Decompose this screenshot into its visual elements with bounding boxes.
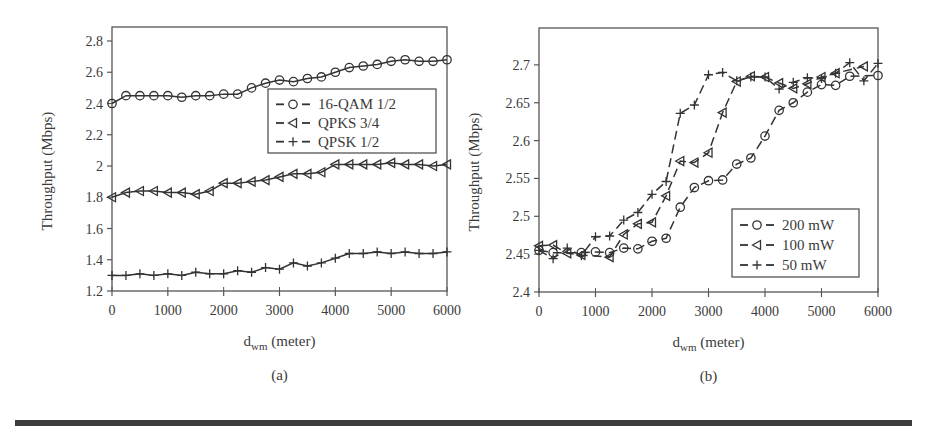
plus-marker bbox=[219, 269, 228, 278]
plus-marker bbox=[387, 249, 396, 258]
x-tick-label: 2000 bbox=[638, 304, 666, 319]
x-tick-label: 6000 bbox=[864, 304, 892, 319]
plus-marker bbox=[443, 247, 452, 256]
y-tick-label: 2 bbox=[96, 159, 103, 174]
y-tick-label: 1.2 bbox=[86, 284, 104, 299]
y-tick-label: 2.4 bbox=[513, 285, 531, 300]
legend-label: 100 mW bbox=[782, 237, 835, 253]
plus-marker bbox=[690, 101, 699, 110]
plus-marker bbox=[359, 249, 368, 258]
y-tick-label: 2.2 bbox=[86, 128, 104, 143]
x-tick-label: 3000 bbox=[695, 304, 723, 319]
chart-panel-a: 1.21.41.61.822.22.42.62.8010002000300040… bbox=[39, 27, 461, 384]
x-tick-label: 5000 bbox=[377, 303, 405, 318]
y-tick-label: 1.4 bbox=[86, 253, 104, 268]
plus-marker bbox=[429, 249, 438, 258]
y-tick-label: 2.4 bbox=[86, 97, 104, 112]
plus-marker bbox=[205, 269, 214, 278]
series-qpsk-1-2 bbox=[108, 247, 452, 279]
x-tick-label: 0 bbox=[536, 304, 543, 319]
y-tick-label: 2.65 bbox=[506, 96, 531, 111]
y-tick-label: 2.5 bbox=[513, 209, 531, 224]
plus-marker bbox=[191, 268, 200, 277]
x-tick-label: 1000 bbox=[154, 303, 182, 318]
y-tick-label: 2.6 bbox=[86, 65, 104, 80]
y-tick-label: 2.8 bbox=[86, 34, 104, 49]
plus-marker bbox=[331, 254, 340, 263]
legend-label: 16-QAM 1/2 bbox=[318, 96, 396, 112]
y-tick-label: 2.55 bbox=[506, 171, 531, 186]
plus-marker bbox=[591, 232, 600, 241]
panel-label: (b) bbox=[700, 368, 718, 385]
page-divider-bar bbox=[15, 420, 912, 426]
plus-marker bbox=[676, 109, 685, 118]
plus-marker bbox=[373, 247, 382, 256]
y-tick-label: 2.6 bbox=[513, 134, 531, 149]
circle-marker bbox=[676, 203, 684, 211]
plus-marker bbox=[149, 271, 158, 280]
legend-label: 50 mW bbox=[782, 257, 827, 273]
x-tick-label: 3000 bbox=[266, 303, 294, 318]
plus-marker bbox=[317, 258, 326, 267]
panel-label: (a) bbox=[271, 367, 288, 384]
x-axis-label: dwm (meter) bbox=[244, 333, 316, 352]
plus-marker bbox=[261, 263, 270, 272]
plus-marker bbox=[135, 269, 144, 278]
legend: 200 mW100 mW50 mW bbox=[732, 209, 859, 277]
y-tick-label: 1.8 bbox=[86, 190, 104, 205]
figure: 1.21.41.61.822.22.42.62.8010002000300040… bbox=[0, 0, 927, 426]
plus-marker bbox=[233, 266, 242, 275]
plus-marker bbox=[163, 269, 172, 278]
plus-marker bbox=[108, 271, 117, 280]
x-tick-label: 1000 bbox=[582, 304, 610, 319]
chart-panel-b: 2.42.452.52.552.62.652.70100020003000400… bbox=[466, 28, 892, 385]
plus-marker bbox=[303, 262, 312, 271]
series-qpks-3-4 bbox=[108, 158, 451, 201]
legend-label: QPSK 1/2 bbox=[318, 134, 379, 150]
plus-marker bbox=[289, 258, 298, 267]
y-tick-label: 2.45 bbox=[506, 247, 531, 262]
y-axis-label: Throughput (Mbps) bbox=[39, 112, 56, 231]
plus-marker bbox=[275, 265, 284, 274]
plus-marker bbox=[121, 271, 130, 280]
plot-frame bbox=[112, 27, 447, 291]
x-tick-label: 5000 bbox=[808, 304, 836, 319]
y-axis-label: Throughput (Mbps) bbox=[466, 113, 483, 232]
plus-marker bbox=[718, 68, 727, 77]
legend-label: 200 mW bbox=[782, 217, 835, 233]
legend-label: QPKS 3/4 bbox=[318, 115, 380, 131]
plus-marker bbox=[704, 70, 713, 79]
x-tick-label: 0 bbox=[109, 303, 116, 318]
plus-marker bbox=[177, 271, 186, 280]
legend: 16-QAM 1/2QPKS 3/4QPSK 1/2 bbox=[268, 89, 436, 153]
plus-marker bbox=[247, 268, 256, 277]
x-tick-label: 6000 bbox=[433, 303, 461, 318]
x-tick-label: 4000 bbox=[751, 304, 779, 319]
y-tick-label: 1.6 bbox=[86, 222, 104, 237]
x-axis-label: dwm (meter) bbox=[673, 334, 745, 353]
x-tick-label: 2000 bbox=[210, 303, 238, 318]
plus-marker bbox=[345, 249, 354, 258]
x-tick-label: 4000 bbox=[321, 303, 349, 318]
plus-marker bbox=[401, 247, 410, 256]
y-tick-label: 2.7 bbox=[513, 58, 531, 73]
plus-marker bbox=[415, 249, 424, 258]
